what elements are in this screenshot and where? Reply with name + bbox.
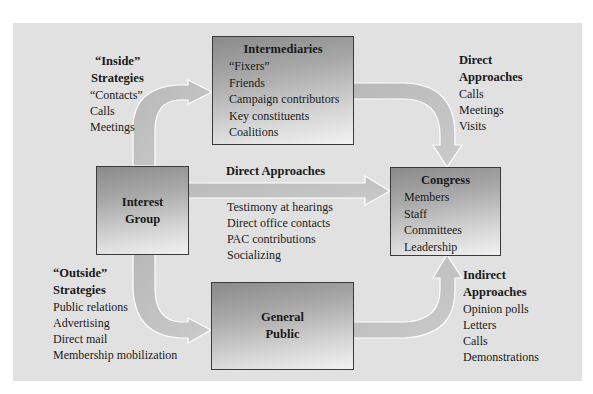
list-item: Public relations xyxy=(53,299,177,315)
node-general-public: General Public xyxy=(211,282,354,370)
label-outside-strategies: “Outside” Strategies Public relations Ad… xyxy=(53,265,177,363)
node-interest-group: Interest Group xyxy=(96,166,189,255)
label-heading-line1: “Inside” xyxy=(90,53,144,70)
label-heading-line2: Approaches xyxy=(463,284,539,301)
node-title-line1: General xyxy=(261,309,304,326)
label-indirect-approaches: Indirect Approaches Opinion polls Letter… xyxy=(463,267,539,365)
list-item: Calls xyxy=(90,103,144,119)
node-title: Intermediaries xyxy=(213,42,353,57)
arrow-indirect-approaches xyxy=(353,255,462,338)
list-item: Members xyxy=(404,189,500,206)
list-item: Calls xyxy=(459,86,523,102)
list-item: Campaign contributors xyxy=(229,91,353,108)
list-item: Membership mobilization xyxy=(53,347,177,363)
list-item: Calls xyxy=(463,333,539,349)
label-heading: Direct Approaches xyxy=(226,163,325,180)
label-inside-strategies: “Inside” Strategies “Contacts” Calls Mee… xyxy=(90,53,144,135)
list-item: Friends xyxy=(229,75,353,92)
arrow-direct-approaches-top xyxy=(353,83,462,167)
label-direct-approaches-top: Direct Approaches Calls Meetings Visits xyxy=(459,52,523,134)
node-title-line1: Interest xyxy=(122,194,163,211)
node-congress: Congress Members Staff Committees Leader… xyxy=(390,167,501,256)
list-item: Demonstrations xyxy=(463,349,539,365)
list-item: Letters xyxy=(463,317,539,333)
list-item: PAC contributions xyxy=(227,231,333,247)
node-title: Congress xyxy=(391,173,500,188)
label-direct-approaches-middle-heading: Direct Approaches xyxy=(226,163,325,180)
label-heading-line2: Approaches xyxy=(459,69,523,86)
label-heading-line2: Strategies xyxy=(53,282,177,299)
list-item: Key constituents xyxy=(229,108,353,125)
list-item: Coalitions xyxy=(229,124,353,141)
list-item: “Fixers” xyxy=(229,58,353,75)
node-intermediaries: Intermediaries “Fixers” Friends Campaign… xyxy=(212,36,354,145)
label-direct-approaches-middle-items: Testimony at hearings Direct office cont… xyxy=(227,199,333,263)
arrow-inside-strategies xyxy=(133,80,212,166)
label-heading-line2: Strategies xyxy=(90,70,144,87)
list-item: Advertising xyxy=(53,315,177,331)
list-item: Testimony at hearings xyxy=(227,199,333,215)
label-heading-line1: Indirect xyxy=(463,267,539,284)
node-title-line2: Group xyxy=(125,211,160,228)
label-heading-line1: “Outside” xyxy=(53,265,177,282)
list-item: Socializing xyxy=(227,247,333,263)
list-item: Meetings xyxy=(90,119,144,135)
list-item: “Contacts” xyxy=(90,87,144,103)
list-item: Meetings xyxy=(459,102,523,118)
list-item: Leadership xyxy=(404,239,500,256)
list-item: Staff xyxy=(404,206,500,223)
list-item: Visits xyxy=(459,118,523,134)
list-item: Direct office contacts xyxy=(227,215,333,231)
label-heading-line1: Direct xyxy=(459,52,523,69)
list-item: Direct mail xyxy=(53,331,177,347)
list-item: Opinion polls xyxy=(463,301,539,317)
node-title-line2: Public xyxy=(265,326,299,343)
list-item: Committees xyxy=(404,222,500,239)
